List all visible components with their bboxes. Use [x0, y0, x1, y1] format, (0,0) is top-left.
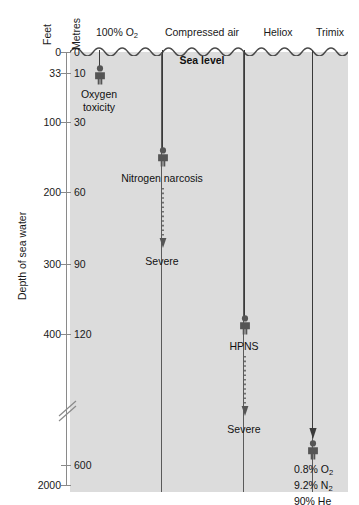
- sea-level-label: Sea level: [180, 54, 225, 66]
- tick-mark-6: [61, 465, 71, 466]
- tick-mark-0: [61, 52, 71, 53]
- column-heading-trimix: Trimix: [316, 26, 344, 38]
- column-heading-oxygen-sub: 2: [134, 31, 138, 40]
- label-trimix-mixture: 0.8% O2 9.2% N2 90% He: [294, 463, 333, 505]
- tick-label-feet-7: 2000: [38, 480, 61, 491]
- tick-label-feet-2: 100: [43, 117, 61, 128]
- tick-label-feet-5: 400: [43, 329, 61, 340]
- tick-mark-2: [61, 122, 71, 123]
- label-narcosis-severe: Severe: [145, 255, 178, 267]
- label-oxygen-toxicity-line1: Oxygen: [81, 88, 117, 100]
- label-hpns: HPNS: [229, 340, 258, 352]
- tick-mark-5: [61, 334, 71, 335]
- axis-break-symbol: [56, 396, 80, 422]
- descent-arrowhead-trimix: [308, 425, 318, 441]
- tick-mark-3: [61, 192, 71, 193]
- tick-label-metres-5: 120: [74, 329, 92, 340]
- trimix-o2: 0.8% O: [294, 463, 329, 475]
- axis-title: Depth of sea water: [16, 212, 28, 300]
- tick-mark-7: [61, 485, 71, 486]
- column-heading-heliox-text: Heliox: [263, 26, 292, 38]
- label-oxygen-toxicity: Oxygen toxicity: [81, 88, 117, 113]
- label-hpns-severe: Severe: [227, 423, 260, 435]
- column-heading-air: Compressed air: [165, 26, 239, 38]
- descent-line-heliox: [244, 50, 245, 318]
- tick-label-metres-4: 90: [74, 259, 86, 270]
- trimix-n2: 9.2% N: [294, 479, 328, 491]
- tick-label-metres-2: 30: [74, 117, 86, 128]
- column-heading-trimix-text: Trimix: [316, 26, 344, 38]
- tick-label-feet-0: 0: [55, 47, 61, 58]
- trimix-he: 90% He: [294, 495, 331, 505]
- column-heading-air-text: Compressed air: [165, 26, 239, 38]
- severity-arrow-hpns: [240, 356, 250, 418]
- tick-label-feet-4: 300: [43, 259, 61, 270]
- diving-depth-diagram: Depth of sea water Feet Metres 0 0 33 10…: [0, 0, 359, 505]
- tick-label-feet-1: 33: [49, 68, 61, 79]
- severity-arrow-narcosis: [158, 188, 168, 250]
- descent-line-air: [162, 50, 163, 150]
- diver-icon-heliox: [237, 315, 253, 335]
- diver-icon-air: [155, 147, 171, 167]
- trimix-o2-sub: 2: [329, 468, 333, 477]
- tick-label-metres-3: 60: [74, 187, 86, 198]
- unit-header-feet: Feet: [41, 24, 53, 45]
- tick-label-metres-0: 0: [74, 47, 80, 58]
- descent-line-trimix: [312, 50, 313, 438]
- tick-mark-1: [61, 73, 71, 74]
- diver-icon-oxygen: [92, 65, 108, 85]
- tick-label-feet-3: 200: [43, 187, 61, 198]
- tick-label-metres-6: 600: [74, 460, 92, 471]
- trimix-n2-sub: 2: [328, 484, 332, 493]
- tick-mark-4: [61, 264, 71, 265]
- column-heading-heliox: Heliox: [263, 26, 292, 38]
- label-nitrogen-narcosis: Nitrogen narcosis: [121, 172, 203, 184]
- water-body: [70, 52, 348, 492]
- label-oxygen-toxicity-line2: toxicity: [83, 101, 115, 113]
- column-heading-oxygen-text: 100% O: [96, 26, 134, 38]
- diver-icon-trimix: [305, 440, 321, 460]
- column-heading-oxygen: 100% O2: [96, 26, 138, 40]
- tick-label-metres-1: 10: [74, 68, 86, 79]
